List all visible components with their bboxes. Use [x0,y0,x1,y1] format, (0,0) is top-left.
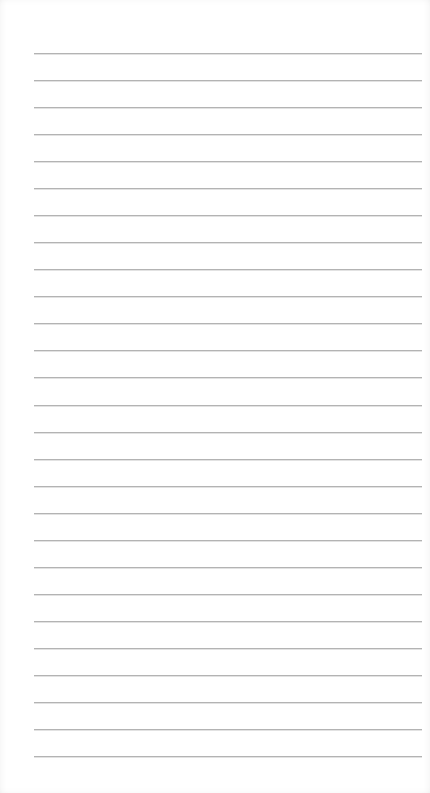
ruled-line [34,513,422,514]
ruled-line [34,296,422,297]
ruled-line [34,134,422,135]
ruled-line [34,405,422,406]
ruled-line [34,215,422,216]
ruled-line [34,729,422,730]
ruled-line [34,675,422,676]
ruled-line [34,350,422,351]
ruled-line [34,188,422,189]
ruled-line [34,540,422,541]
ruled-line [34,161,422,162]
ruled-line [34,242,422,243]
ruled-line [34,323,422,324]
ruled-line [34,567,422,568]
ruled-line [34,269,422,270]
ruled-line [34,53,422,54]
ruled-line [34,621,422,622]
ruled-line [34,756,422,757]
ruled-line [34,594,422,595]
ruled-line [34,486,422,487]
ruled-line [34,80,422,81]
lined-paper-sheet [0,0,430,793]
ruled-line [34,107,422,108]
ruled-line [34,377,422,378]
ruled-line [34,432,422,433]
ruled-line [34,702,422,703]
ruled-line [34,648,422,649]
ruled-line [34,459,422,460]
